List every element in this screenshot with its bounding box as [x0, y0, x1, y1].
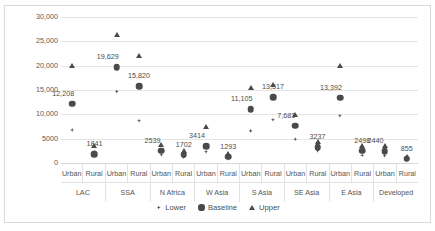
baseline-marker: [69, 100, 76, 107]
category-tick-label: Urban: [106, 164, 128, 182]
category-tick-label: Rural: [307, 164, 329, 182]
data-label: 13,517: [262, 83, 284, 91]
upper-marker: [136, 53, 142, 58]
y-tick-label: 20,000: [36, 62, 58, 70]
baseline-marker: [158, 147, 165, 154]
category-tick-label: Rural: [218, 164, 240, 182]
triangle-marker-icon: [249, 204, 256, 211]
upper-marker: [69, 63, 75, 68]
category-tick-label: Urban: [240, 164, 262, 182]
lower-marker: [204, 150, 208, 154]
data-label: 2539: [144, 137, 160, 145]
group-tick-label: W Asia: [195, 183, 240, 202]
y-tick-label: 30,000: [36, 13, 58, 21]
baseline-marker: [203, 143, 210, 150]
category-tick-label: Rural: [173, 164, 195, 182]
subcategory-row: UrbanRuralUrbanRuralUrbanRuralUrbanRural…: [61, 164, 418, 182]
data-label: 3237: [310, 133, 326, 141]
y-tick-label: 10,000: [36, 110, 58, 118]
data-label: 13,392: [320, 84, 342, 92]
data-label: 7,681: [277, 112, 295, 120]
gridline: [61, 114, 418, 115]
plot-area: 12,208184119,62915,820253917023414129311…: [61, 17, 418, 163]
upper-marker: [203, 124, 209, 129]
group-tick-label: SE Asia: [285, 183, 330, 202]
legend-label-lower: Lower: [165, 203, 186, 212]
category-tick-label: Rural: [262, 164, 284, 182]
baseline-marker: [381, 148, 388, 155]
circle-marker-icon: [198, 204, 205, 211]
data-label: 19,629: [97, 53, 119, 61]
group-tick-label: Developed: [374, 183, 418, 202]
category-tick-label: Urban: [330, 164, 352, 182]
y-tick-label: 25,000: [36, 37, 58, 45]
lower-marker: [271, 118, 275, 122]
data-label: 15,820: [128, 72, 150, 80]
category-tick-label: Rural: [352, 164, 374, 182]
group-tick-label: N Africa: [151, 183, 196, 202]
category-tick-label: Rural: [397, 164, 418, 182]
chart-legend: Lower Baseline Upper: [0, 203, 435, 212]
category-tick-label: Rural: [83, 164, 105, 182]
group-tick-label: S Asia: [240, 183, 285, 202]
data-label: 1293: [220, 143, 236, 151]
upper-marker: [248, 85, 254, 90]
legend-item-upper[interactable]: Upper: [249, 203, 280, 212]
baseline-marker: [359, 148, 366, 155]
chart-container: US$ Billion, Annual 0500010,00015,00020,…: [0, 0, 435, 231]
gridline: [61, 41, 418, 42]
lower-marker: [70, 128, 74, 132]
baseline-marker: [292, 122, 299, 129]
category-tick-label: Urban: [151, 164, 173, 182]
data-label: 855: [401, 145, 413, 153]
upper-marker: [404, 154, 410, 159]
upper-marker: [225, 151, 231, 156]
category-tick-label: Urban: [285, 164, 307, 182]
category-axis: UrbanRuralUrbanRuralUrbanRuralUrbanRural…: [61, 163, 418, 200]
y-tick-label: 0: [54, 159, 58, 167]
legend-item-lower[interactable]: Lower: [155, 203, 186, 212]
gridline: [61, 17, 418, 18]
y-axis-title: US$ Billion, Annual: [0, 0, 1, 38]
group-row: LACSSAN AfricaW AsiaS AsiaSE AsiaE AsiaD…: [61, 182, 418, 202]
lower-marker: [137, 119, 141, 123]
baseline-marker: [337, 95, 344, 102]
lower-marker: [249, 129, 253, 133]
category-tick-label: Urban: [374, 164, 396, 182]
baseline-marker: [314, 144, 321, 151]
baseline-marker: [113, 64, 120, 71]
legend-label-upper: Upper: [259, 203, 280, 212]
category-tick-label: Urban: [195, 164, 217, 182]
upper-marker: [337, 63, 343, 68]
group-tick-label: LAC: [61, 183, 106, 202]
data-label: 12,208: [52, 90, 74, 98]
upper-marker: [114, 32, 120, 37]
baseline-marker: [91, 151, 98, 158]
group-tick-label: SSA: [106, 183, 151, 202]
diamond-marker-icon: [155, 204, 162, 211]
category-tick-label: Urban: [61, 164, 83, 182]
group-tick-label: E Asia: [330, 183, 375, 202]
data-label: 1841: [86, 140, 102, 148]
data-label: 3414: [189, 132, 205, 140]
baseline-marker: [136, 83, 143, 90]
baseline-marker: [247, 106, 254, 113]
gridline: [61, 90, 418, 91]
data-label: 11,105: [231, 95, 252, 103]
legend-label-baseline: Baseline: [208, 203, 237, 212]
y-tick-label: 5000: [42, 135, 58, 143]
baseline-marker: [270, 94, 277, 101]
legend-item-baseline[interactable]: Baseline: [198, 203, 237, 212]
data-label: 1702: [176, 141, 192, 149]
data-label: 2440: [368, 137, 384, 145]
category-tick-label: Rural: [128, 164, 150, 182]
